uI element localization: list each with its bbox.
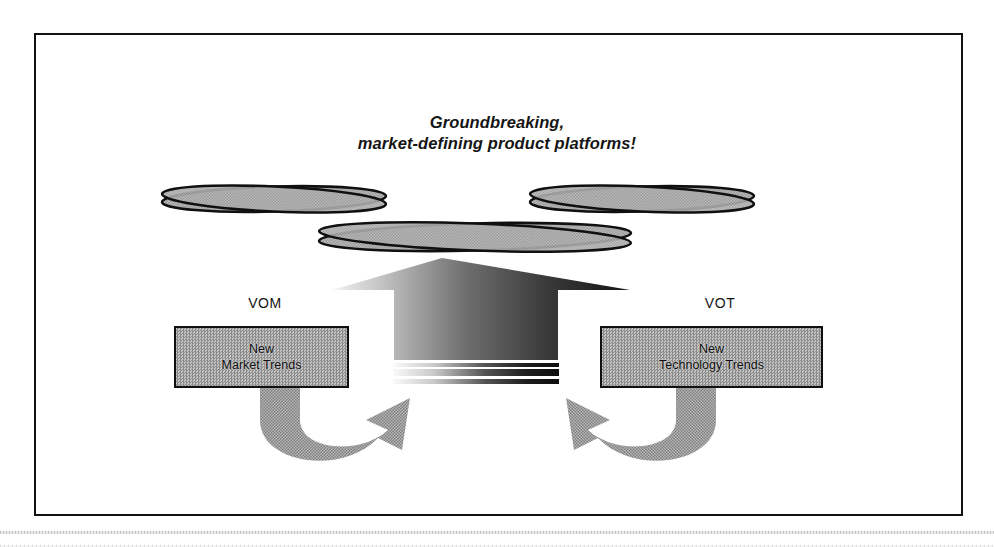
box-market-label: New Market Trends [222, 341, 302, 373]
box-technology-label: New Technology Trends [659, 341, 764, 373]
market-trend-feeder-arrow [238, 372, 448, 480]
page-title: Groundbreaking, market-defining product … [247, 112, 747, 154]
box-new-technology-trends: New Technology Trends [600, 326, 823, 388]
platform-ellipse-top-left [162, 181, 387, 216]
platform-ellipse-top-right [530, 181, 755, 216]
arrow-stripe-1 [393, 363, 559, 367]
platform-ellipse-bottom [319, 218, 632, 254]
arrow-body [332, 258, 630, 360]
label-vom: VOM [185, 295, 345, 311]
screenshot-canvas: Groundbreaking, market-defining product … [0, 0, 994, 547]
platform-cluster [150, 172, 820, 254]
feeder-arrow-path-right [566, 376, 716, 461]
box-new-market-trends: New Market Trends [174, 326, 349, 388]
feeder-arrow-path-left [260, 376, 410, 461]
label-vot: VOT [640, 295, 800, 311]
technology-trend-feeder-arrow [528, 372, 738, 480]
scan-artifact-line-top [0, 531, 994, 534]
